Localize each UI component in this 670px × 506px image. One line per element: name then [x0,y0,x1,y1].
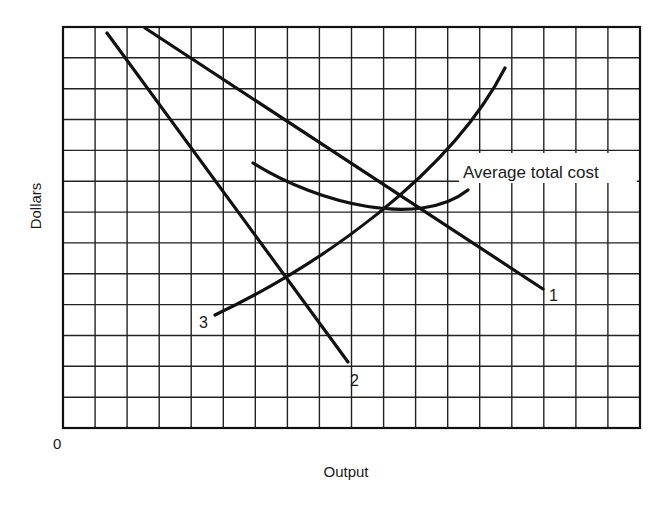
atc-label: Average total cost [463,163,599,182]
x-axis-label: Output [323,463,369,480]
origin-label: 0 [53,435,61,452]
cost-curves-chart: Average total cost 1 2 3 0 Output Dollar… [0,0,670,506]
curve-1-label: 1 [549,287,558,304]
y-axis-label: Dollars [27,183,44,230]
curve-3-label: 3 [199,314,208,331]
curve-3 [215,68,505,315]
curve-2-label: 2 [350,372,359,389]
grid [63,27,640,428]
